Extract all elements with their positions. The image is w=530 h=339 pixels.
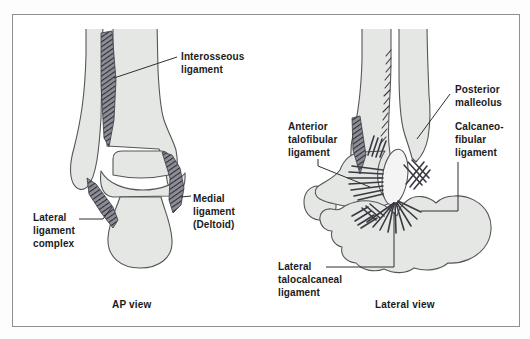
caption-ap-view: AP view xyxy=(112,298,152,311)
ap-fibula-bone xyxy=(70,22,103,189)
caption-lateral-view: Lateral view xyxy=(375,298,435,311)
ap-medial-ligament xyxy=(162,152,184,213)
figure: Interosseous ligament Medial ligament (D… xyxy=(0,0,530,339)
label-medial-ligament: Medial ligament (Deltoid) xyxy=(193,192,235,231)
label-lateral-ligament-complex: Lateral ligament complex xyxy=(33,211,75,250)
ap-view-drawing xyxy=(70,22,185,268)
label-interosseous-ligament: Interosseous ligament xyxy=(181,50,244,76)
anatomy-drawing xyxy=(0,0,530,339)
label-calcaneofibular-ligament: Calcaneo- fibular ligament xyxy=(455,120,504,159)
lat-tibia-bone xyxy=(399,22,430,162)
label-lateral-talocalcaneal-ligament: Lateral talocalcaneal ligament xyxy=(278,260,342,299)
label-anterior-talofibular-ligament: Anterior talofibular ligament xyxy=(288,120,337,159)
ap-lower-bone xyxy=(108,197,172,268)
shaft-top-mask xyxy=(13,15,519,29)
label-posterior-malleolus: Posterior malleolus xyxy=(455,83,502,109)
ap-talus-dome xyxy=(113,151,169,178)
lat-calcaneus-bone xyxy=(320,196,491,273)
